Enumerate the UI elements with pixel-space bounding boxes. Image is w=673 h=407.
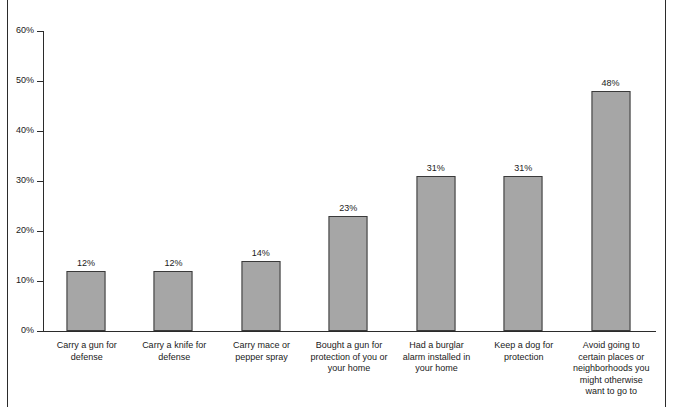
bar-group: 12% <box>43 31 129 331</box>
bar[interactable] <box>591 91 630 331</box>
bar[interactable] <box>154 271 193 331</box>
bar[interactable] <box>241 261 280 331</box>
bar-group: 48% <box>568 31 654 331</box>
category-label-line: protection <box>476 352 572 364</box>
bar-value-label: 31% <box>427 163 445 173</box>
bar-group: 31% <box>480 31 566 331</box>
bar-chart-figure: 0%10%20%30%40%50%60% 12%12%14%23%31%31%4… <box>0 0 673 407</box>
category-label-line: neighborhoods you <box>563 363 659 375</box>
x-axis-category-label: Keep a dog forprotection <box>476 340 572 363</box>
x-axis-line <box>43 331 656 332</box>
y-axis-tick-label: 0% <box>0 326 34 335</box>
category-label-line: certain places or <box>563 352 659 364</box>
category-label-line: want to go to <box>563 386 659 398</box>
y-axis-tick-label: 40% <box>0 126 34 135</box>
category-label-line: Carry a gun for <box>39 340 135 352</box>
bar-group: 12% <box>130 31 216 331</box>
bar-value-label: 23% <box>339 203 357 213</box>
y-axis-tick-label: 60% <box>0 26 34 35</box>
x-axis-category-label: Avoid going tocertain places orneighborh… <box>563 340 659 398</box>
category-label-line: your home <box>388 363 484 375</box>
bar-group: 31% <box>393 31 479 331</box>
bar-value-label: 31% <box>514 163 532 173</box>
category-label-line: Keep a dog for <box>476 340 572 352</box>
bar-group: 23% <box>305 31 391 331</box>
category-label-line: Carry a knife for <box>126 340 222 352</box>
bar-group: 14% <box>218 31 304 331</box>
category-label-line: Bought a gun for <box>301 340 397 352</box>
bar-value-label: 12% <box>77 258 95 268</box>
frame-left-rule <box>7 0 8 407</box>
y-axis-tick-label: 20% <box>0 226 34 235</box>
category-label-line: protection of you or <box>301 352 397 364</box>
category-label-line: alarm installed in <box>388 352 484 364</box>
x-axis-category-label: Carry a knife fordefense <box>126 340 222 363</box>
category-label-line: pepper spray <box>214 352 310 364</box>
category-label-line: Had a burglar <box>388 340 484 352</box>
bar-value-label: 12% <box>164 258 182 268</box>
bar-value-label: 48% <box>602 78 620 88</box>
y-axis-tick <box>37 331 43 332</box>
bar[interactable] <box>67 271 106 331</box>
plot-area: 12%12%14%23%31%31%48% <box>43 31 655 331</box>
x-axis-category-label: Had a burglaralarm installed inyour home <box>388 340 484 375</box>
category-label-line: Avoid going to <box>563 340 659 352</box>
category-label-line: defense <box>126 352 222 364</box>
y-axis-tick-label: 30% <box>0 176 34 185</box>
y-axis-tick-label: 50% <box>0 76 34 85</box>
x-axis-category-label: Bought a gun forprotection of you oryour… <box>301 340 397 375</box>
bar[interactable] <box>504 176 543 331</box>
y-axis-tick-label: 10% <box>0 276 34 285</box>
category-label-line: Carry mace or <box>214 340 310 352</box>
category-label-line: your home <box>301 363 397 375</box>
x-axis-category-label: Carry mace orpepper spray <box>214 340 310 363</box>
bar[interactable] <box>416 176 455 331</box>
category-label-line: might otherwise <box>563 375 659 387</box>
bar[interactable] <box>329 216 368 331</box>
x-axis-category-label: Carry a gun fordefense <box>39 340 135 363</box>
frame-right-rule <box>665 0 666 407</box>
category-label-line: defense <box>39 352 135 364</box>
bar-value-label: 14% <box>252 248 270 258</box>
